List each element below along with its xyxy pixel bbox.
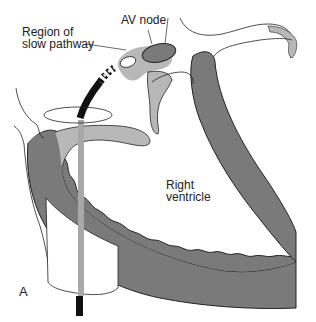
label-ventricle: ventricle xyxy=(166,190,211,204)
catheter-shaft xyxy=(78,120,84,296)
atrial-outline-upper xyxy=(180,18,295,58)
ablation-catheter xyxy=(80,82,100,118)
tendon-of-todaro xyxy=(147,71,172,134)
atrial-appendage xyxy=(268,26,297,58)
catheter-proximal xyxy=(76,296,83,316)
ivc-outline xyxy=(16,88,44,138)
interventricular-septum xyxy=(191,52,296,262)
heart-anatomy-diagram: Region of slow pathway AV node Right ven… xyxy=(0,0,316,322)
panel-label: A xyxy=(19,284,28,299)
atrial-outline-mid xyxy=(214,39,292,57)
label-slow-pathway: slow pathway xyxy=(22,37,94,51)
av-node-leader-1 xyxy=(148,30,152,44)
catheter-electrodes xyxy=(100,68,114,82)
label-av-node: AV node xyxy=(121,13,166,27)
